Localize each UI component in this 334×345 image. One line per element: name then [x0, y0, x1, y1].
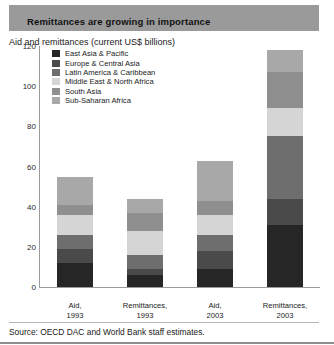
x-label-line2: 2003 — [180, 311, 250, 321]
bar-segment — [127, 199, 163, 213]
bar-segment — [57, 235, 93, 249]
bar-segment — [57, 249, 93, 263]
bar-group — [127, 199, 163, 287]
y-tick-20: 20 — [2, 242, 36, 251]
x-axis-label: Aid,2003 — [180, 301, 250, 321]
bottom-divider — [0, 342, 334, 344]
y-tick-40: 40 — [2, 202, 36, 211]
source-divider — [9, 322, 319, 323]
bar-group — [267, 50, 303, 287]
bars-container — [40, 46, 320, 287]
y-tick-120: 120 — [2, 42, 36, 51]
bar-segment — [197, 161, 233, 201]
bar-segment — [267, 50, 303, 72]
x-label-line2: 1993 — [40, 311, 110, 321]
y-axis-ticks: 020406080100120 — [0, 46, 36, 288]
x-label-line1: Remittances, — [110, 301, 180, 311]
bar-segment — [57, 215, 93, 235]
page-title: Remittances are growing in importance — [27, 16, 210, 27]
x-label-line2: 1993 — [110, 311, 180, 321]
x-label-line1: Remittances, — [250, 301, 320, 311]
y-tick-100: 100 — [2, 82, 36, 91]
x-axis-label: Remittances,1993 — [110, 301, 180, 321]
bar-segment — [57, 263, 93, 287]
x-axis-label: Remittances,2003 — [250, 301, 320, 321]
bar-segment — [267, 199, 303, 225]
bar-group — [57, 177, 93, 287]
bar-segment — [197, 269, 233, 287]
bar-segment — [57, 205, 93, 215]
y-tick-80: 80 — [2, 122, 36, 131]
bar-segment — [197, 201, 233, 215]
bar-segment — [267, 108, 303, 136]
x-axis-label: Aid,1993 — [40, 301, 110, 321]
bar-segment — [197, 251, 233, 269]
bar-segment — [57, 177, 93, 205]
source-note: Source: OECD DAC and World Bank staff es… — [9, 327, 205, 337]
bar-segment — [267, 72, 303, 108]
bar-segment — [127, 255, 163, 269]
y-tick-60: 60 — [2, 162, 36, 171]
bar-segment — [267, 136, 303, 198]
title-banner: Remittances are growing in importance — [9, 5, 319, 31]
bar-group — [197, 161, 233, 287]
x-label-line2: 2003 — [250, 311, 320, 321]
x-label-line1: Aid, — [180, 301, 250, 311]
y-tick-0: 0 — [2, 283, 36, 292]
chart-figure: Remittances are growing in importance Ai… — [0, 0, 334, 345]
x-label-line1: Aid, — [40, 301, 110, 311]
bar-segment — [127, 275, 163, 287]
bar-segment — [127, 231, 163, 255]
bar-segment — [197, 215, 233, 235]
bar-segment — [267, 225, 303, 287]
bar-segment — [127, 213, 163, 231]
bar-segment — [197, 235, 233, 251]
x-axis-line — [39, 287, 320, 288]
